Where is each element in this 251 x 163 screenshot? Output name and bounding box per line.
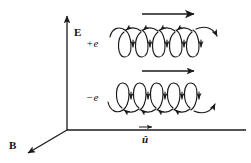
helix-negative	[108, 83, 215, 113]
diagram-canvas	[0, 0, 251, 163]
charge-label-positive: +e	[86, 38, 98, 49]
helix-positive	[110, 27, 217, 57]
axis-line-B	[28, 130, 67, 153]
charge-label-negative: −e	[86, 92, 98, 103]
axis-label-u: û	[142, 134, 148, 145]
axis-label-B: B	[9, 140, 16, 151]
axis-label-E: E	[74, 27, 81, 38]
physics-diagram: E B û +e −e	[0, 0, 251, 163]
